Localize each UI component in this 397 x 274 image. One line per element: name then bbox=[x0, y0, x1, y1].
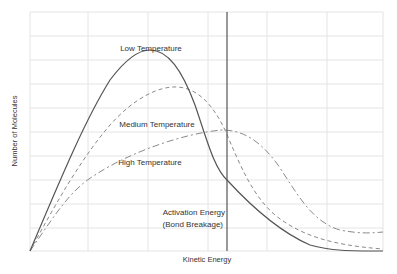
chart: Low Temperature Medium Temperature High … bbox=[0, 0, 397, 274]
x-axis-label: Kinetic Energy bbox=[183, 255, 232, 264]
medium-temperature-label: Medium Temperature bbox=[119, 120, 195, 129]
y-axis-label: Number of Molecules bbox=[10, 95, 19, 166]
high-temperature-label: High Temperature bbox=[118, 158, 182, 167]
high-temperature-curve bbox=[30, 130, 383, 251]
activation-energy-label: Activation Energy bbox=[163, 208, 225, 217]
low-temperature-label: Low Temperature bbox=[120, 44, 182, 53]
bond-breakage-label: (Bond Breakage) bbox=[163, 220, 224, 229]
